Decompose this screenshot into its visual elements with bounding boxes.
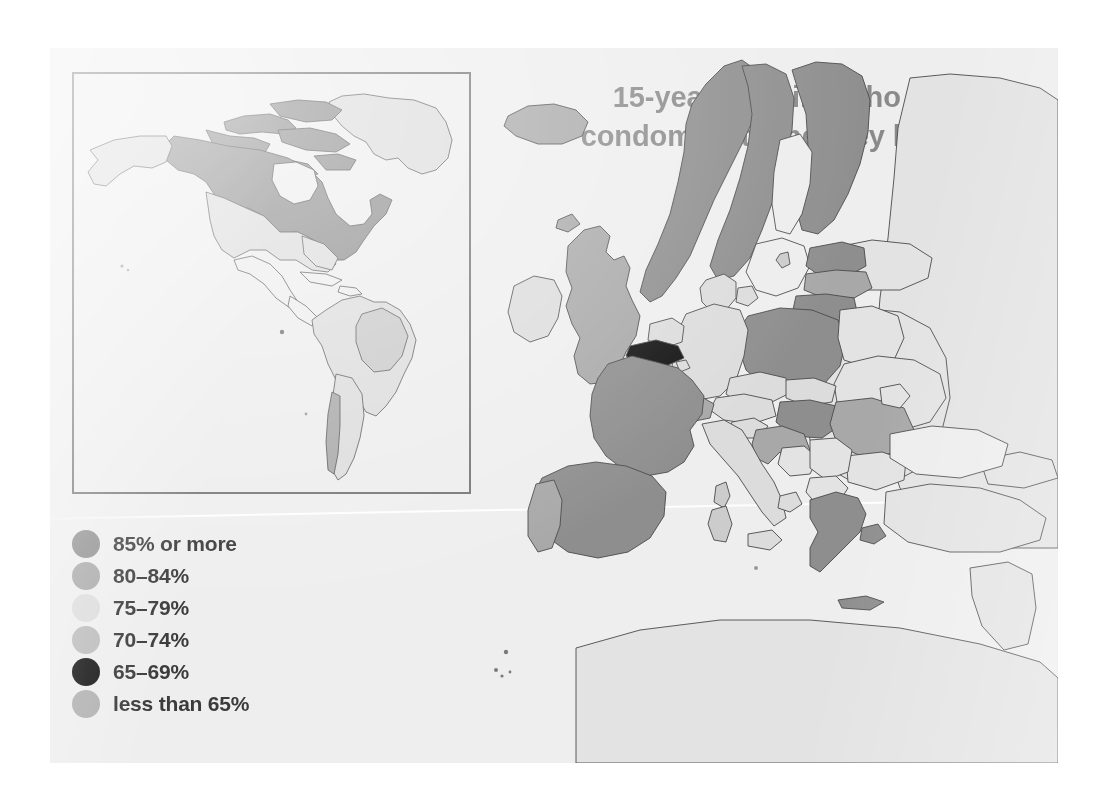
legend-item[interactable]: 75–79% <box>72 592 249 624</box>
main-map-europe[interactable] <box>480 48 1058 763</box>
legend-swatch-icon <box>72 690 100 718</box>
region-canada-arctic-4 <box>278 128 350 152</box>
legend-item[interactable]: less than 65% <box>72 688 249 720</box>
americas-map-svg <box>74 74 469 492</box>
region-sicily <box>748 530 782 550</box>
region-crete <box>838 596 884 610</box>
region-italy-heel <box>778 492 802 512</box>
island-malta <box>754 566 758 570</box>
legend-swatch-icon <box>72 594 100 622</box>
region-iceland <box>504 104 588 144</box>
region-greece-islands <box>860 524 886 544</box>
region-ireland <box>508 276 562 342</box>
island-canary-3 <box>509 671 512 674</box>
legend-item[interactable]: 85% or more <box>72 528 249 560</box>
region-levant <box>970 562 1036 650</box>
island-canary-2 <box>500 674 503 677</box>
map-legend: 85% or more 80–84% 75–79% 70–74% 65–69% <box>72 528 249 720</box>
region-scotland-islands <box>556 214 580 232</box>
legend-swatch-icon <box>72 530 100 558</box>
legend-item-label: 75–79% <box>113 596 189 620</box>
legend-item[interactable]: 65–69% <box>72 656 249 688</box>
legend-swatch-icon <box>72 562 100 590</box>
legend-item-label: 70–74% <box>113 628 189 652</box>
region-caribbean-cuba <box>300 272 342 286</box>
region-latvia <box>804 270 872 298</box>
region-denmark-isles <box>736 286 758 306</box>
legend-item[interactable]: 70–74% <box>72 624 249 656</box>
legend-item-label: less than 65% <box>113 692 249 716</box>
region-austria <box>710 394 776 424</box>
region-canada-arctic-6 <box>314 154 356 170</box>
legend-item-label: 80–84% <box>113 564 189 588</box>
legend-item[interactable]: 80–84% <box>72 560 249 592</box>
baltic-sea-main <box>746 238 810 296</box>
region-corsica <box>714 482 730 508</box>
map-plate: 15-year-old girls who used a condom last… <box>50 48 1058 763</box>
region-mexico <box>234 256 298 308</box>
europe-map-svg <box>480 48 1058 763</box>
island-dot-3 <box>280 330 284 334</box>
legend-swatch-icon <box>72 658 100 686</box>
legend-item-label: 65–69% <box>113 660 189 684</box>
region-caribbean-hispaniola <box>338 286 362 296</box>
inset-map-americas[interactable] <box>72 72 471 494</box>
island-dot-4 <box>305 413 308 416</box>
island-dot-2 <box>127 269 129 271</box>
island-madeira <box>504 650 508 654</box>
region-greece <box>810 492 866 572</box>
figure-page: 15-year-old girls who used a condom last… <box>0 0 1108 802</box>
legend-swatch-icon <box>72 626 100 654</box>
region-north-africa <box>576 620 1058 763</box>
region-sardinia <box>708 506 732 542</box>
island-canary-1 <box>494 668 498 672</box>
region-alaska <box>88 136 172 186</box>
legend-item-label: 85% or more <box>113 532 237 556</box>
island-dot-1 <box>120 264 123 267</box>
